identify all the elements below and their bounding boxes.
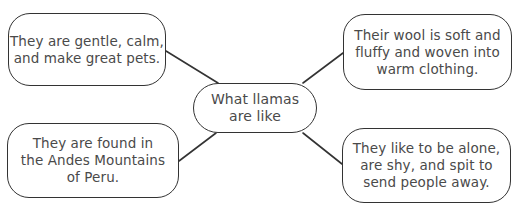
node-top-left-text: They are gentle, calm, and make great pe…	[10, 33, 164, 67]
connector-top-right	[303, 53, 343, 83]
center-node: What llamas are like	[193, 83, 317, 133]
center-node-text: What llamas are like	[211, 91, 299, 125]
node-top-right-text: Their wool is soft and fluffy and woven …	[354, 27, 500, 78]
node-bottom-left: They are found in the Andes Mountains of…	[7, 123, 179, 198]
connector-bottom-right	[303, 133, 342, 164]
node-bottom-right-text: They like to be alone, are shy, and spit…	[353, 140, 500, 191]
node-bottom-left-text: They are found in the Andes Mountains of…	[21, 135, 165, 186]
connector-top-left	[166, 51, 218, 83]
node-bottom-right: They like to be alone, are shy, and spit…	[342, 128, 511, 203]
node-top-right: Their wool is soft and fluffy and woven …	[343, 14, 512, 90]
node-top-left: They are gentle, calm, and make great pe…	[8, 13, 166, 86]
connector-bottom-left	[179, 133, 216, 161]
